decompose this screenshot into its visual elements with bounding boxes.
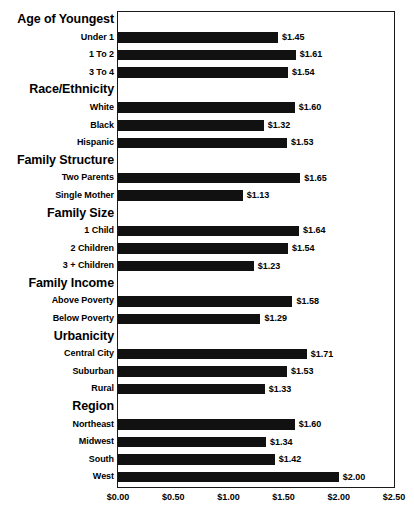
bar-row: Midwest$1.34 [0, 433, 414, 451]
horizontal-bar-chart: Age of YoungestUnder 1$1.451 To 2$1.613 … [0, 0, 414, 520]
bar-row: Suburban$1.53 [0, 363, 414, 381]
bar [118, 50, 296, 61]
bar-category-label: 1 To 2 [0, 46, 114, 64]
bar [118, 472, 339, 483]
bar-row: White$1.60 [0, 99, 414, 117]
bar-value-label: $1.23 [258, 260, 281, 273]
x-axis-tick-0: $0.00 [107, 492, 130, 502]
bar-category-label: Hispanic [0, 134, 114, 152]
bar-category-label: South [0, 451, 114, 469]
bar-row: Single Mother$1.13 [0, 187, 414, 205]
bar-category-label: Rural [0, 380, 114, 398]
group-header-row: Age of Youngest [0, 11, 414, 29]
bar [118, 120, 264, 131]
bar-value-label: $1.32 [268, 119, 291, 132]
bar-value-label: $1.53 [291, 365, 314, 378]
bar-category-label: Two Parents [0, 169, 114, 187]
bar [118, 138, 287, 149]
bar-category-label: Below Poverty [0, 310, 114, 328]
bar [118, 419, 295, 430]
bar-category-label: Midwest [0, 433, 114, 451]
group-header-label: Family Size [0, 205, 114, 223]
bar-row: 3 + Children$1.23 [0, 257, 414, 275]
bar-row: West$2.00 [0, 468, 414, 486]
bar-row: Above Poverty$1.58 [0, 292, 414, 310]
bar-value-label: $1.13 [247, 189, 270, 202]
bar-category-label: Single Mother [0, 187, 114, 205]
group-header-row: Family Size [0, 205, 414, 223]
bar-row: Central City$1.71 [0, 345, 414, 363]
bar-category-label: West [0, 468, 114, 486]
bar-value-label: $1.61 [300, 48, 323, 61]
bar [118, 437, 266, 448]
bar-value-label: $1.29 [264, 312, 287, 325]
bar-value-label: $1.53 [291, 136, 314, 149]
bar-category-label: Above Poverty [0, 292, 114, 310]
group-header-row: Family Income [0, 275, 414, 293]
bar-value-label: $1.42 [279, 453, 302, 466]
bar [118, 190, 243, 201]
bar-row: Below Poverty$1.29 [0, 310, 414, 328]
bar [118, 296, 292, 307]
bar-row: 1 To 2$1.61 [0, 46, 414, 64]
bar-value-label: $2.00 [343, 471, 366, 484]
bar-row: 1 Child$1.64 [0, 222, 414, 240]
x-axis-tick-3: $1.50 [272, 492, 295, 502]
bar [118, 314, 260, 325]
bar-category-label: 3 + Children [0, 257, 114, 275]
bar-category-label: 1 Child [0, 222, 114, 240]
group-header-row: Urbanicity [0, 328, 414, 346]
bar-row: Hispanic$1.53 [0, 134, 414, 152]
bar [118, 243, 288, 254]
group-header-label: Urbanicity [0, 328, 114, 346]
bar-row: Under 1$1.45 [0, 29, 414, 47]
bar [118, 67, 288, 78]
bar [118, 349, 307, 360]
bar-category-label: 3 To 4 [0, 64, 114, 82]
bar [118, 454, 275, 465]
group-header-label: Family Structure [0, 152, 114, 170]
bar-row: 2 Children$1.54 [0, 240, 414, 258]
bar [118, 366, 287, 377]
bar-row: Northeast$1.60 [0, 416, 414, 434]
bar-value-label: $1.54 [292, 242, 315, 255]
x-axis-tick-2: $1.00 [217, 492, 240, 502]
bar-row: 3 To 4$1.54 [0, 64, 414, 82]
group-header-label: Race/Ethnicity [0, 81, 114, 99]
bar-category-label: Central City [0, 345, 114, 363]
group-header-label: Region [0, 398, 114, 416]
group-header-label: Age of Youngest [0, 11, 114, 29]
bar-value-label: $1.34 [270, 436, 293, 449]
bar-value-label: $1.65 [304, 172, 327, 185]
x-axis-tick-5: $2.50 [383, 492, 406, 502]
bar-value-label: $1.60 [299, 418, 322, 431]
group-header-label: Family Income [0, 275, 114, 293]
bar-value-label: $1.33 [269, 383, 292, 396]
group-header-row: Family Structure [0, 152, 414, 170]
bar-category-label: Northeast [0, 416, 114, 434]
bar [118, 173, 300, 184]
bar-row: Black$1.32 [0, 117, 414, 135]
bar-category-label: Suburban [0, 363, 114, 381]
bar-category-label: Under 1 [0, 29, 114, 47]
bar-value-label: $1.64 [303, 224, 326, 237]
x-axis-tick-1: $0.50 [162, 492, 185, 502]
bar-value-label: $1.58 [296, 295, 319, 308]
bar-row: Rural$1.33 [0, 380, 414, 398]
bar-value-label: $1.54 [292, 66, 315, 79]
bar [118, 32, 278, 43]
x-axis-tick-4: $2.00 [328, 492, 351, 502]
bar-category-label: Black [0, 117, 114, 135]
x-axis-tick-labels: $0.00$0.50$1.00$1.50$2.00$2.50 [0, 492, 414, 512]
bar-value-label: $1.45 [282, 31, 305, 44]
bar [118, 226, 299, 237]
bar-value-label: $1.71 [311, 348, 334, 361]
bar-row: South$1.42 [0, 451, 414, 469]
bar-category-label: 2 Children [0, 240, 114, 258]
bar [118, 261, 254, 272]
group-header-row: Region [0, 398, 414, 416]
bar-value-label: $1.60 [299, 101, 322, 114]
bar [118, 102, 295, 113]
bar-row: Two Parents$1.65 [0, 169, 414, 187]
bar-category-label: White [0, 99, 114, 117]
